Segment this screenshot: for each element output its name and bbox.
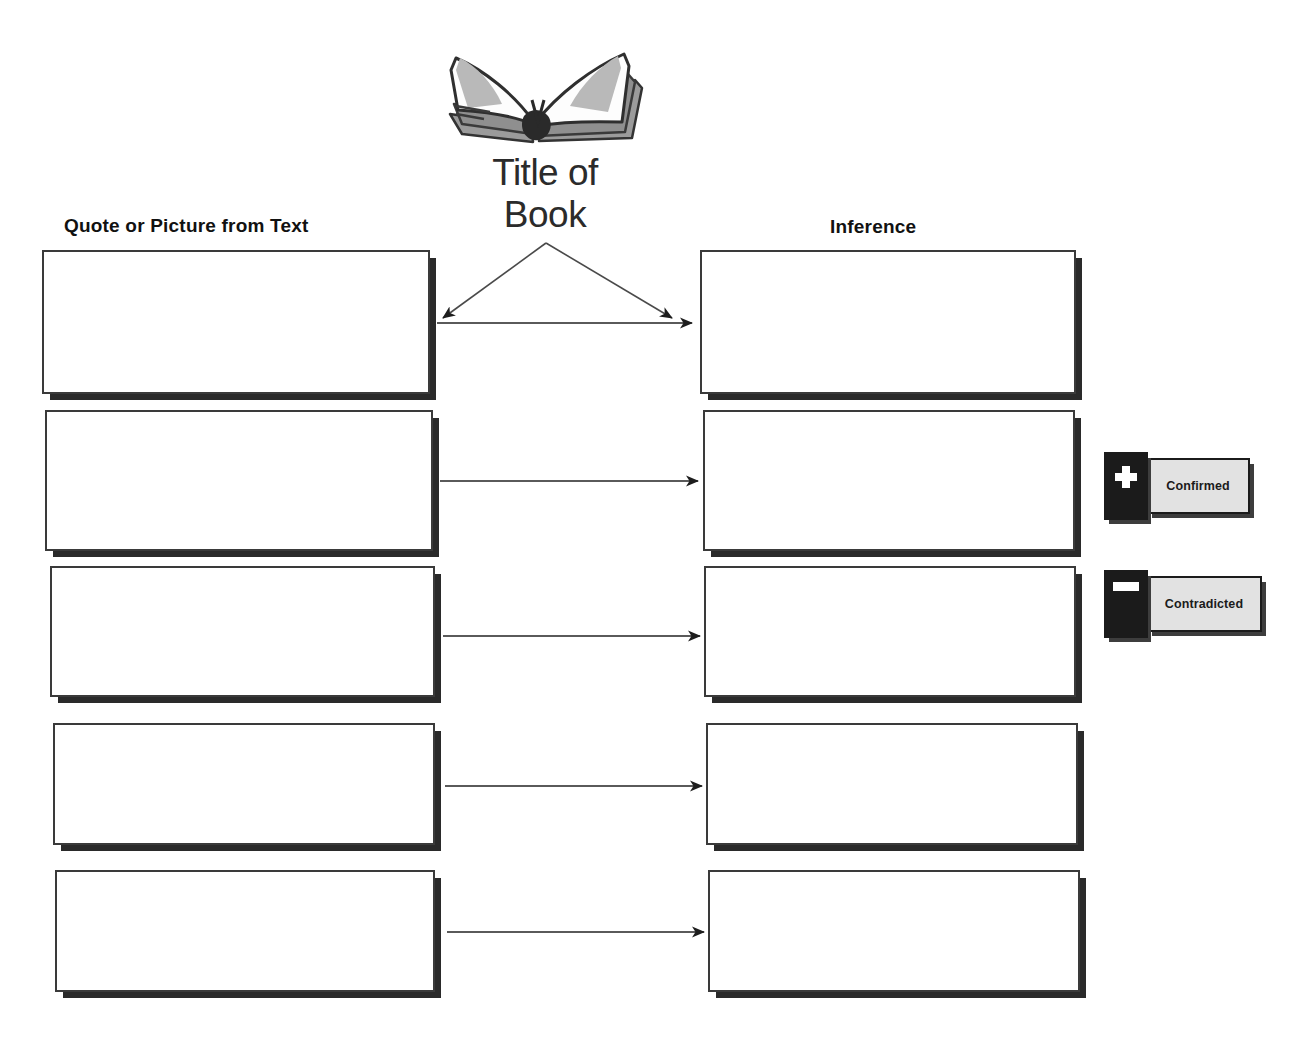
- plus-icon: [1115, 466, 1137, 488]
- contradicted-badge: [1104, 570, 1148, 638]
- worksheet-canvas: Title of Book Quote or Picture from Text…: [0, 0, 1293, 1039]
- inference-box-2[interactable]: [703, 410, 1075, 551]
- confirmed-badge: [1104, 452, 1148, 520]
- legend-item-confirmed[interactable]: Confirmed: [1104, 452, 1250, 520]
- minus-icon: [1113, 582, 1139, 591]
- legend-item-contradicted[interactable]: Contradicted: [1104, 570, 1262, 638]
- quote-box-4[interactable]: [53, 723, 435, 845]
- column-heading-quote: Quote or Picture from Text: [64, 215, 309, 237]
- quote-box-2[interactable]: [45, 410, 433, 551]
- inference-box-4[interactable]: [706, 723, 1078, 845]
- column-heading-inference: Inference: [830, 216, 916, 238]
- quote-box-3[interactable]: [50, 566, 435, 697]
- quote-box-1[interactable]: [42, 250, 430, 394]
- book-title-label: Title of Book: [410, 152, 680, 236]
- inference-box-5[interactable]: [708, 870, 1080, 992]
- quote-box-5[interactable]: [55, 870, 435, 992]
- legend-label-confirmed: Confirmed: [1146, 458, 1250, 514]
- inference-box-1[interactable]: [700, 250, 1076, 394]
- legend-label-contradicted: Contradicted: [1146, 576, 1262, 632]
- open-book-icon: [432, 22, 650, 150]
- inference-box-3[interactable]: [704, 566, 1076, 697]
